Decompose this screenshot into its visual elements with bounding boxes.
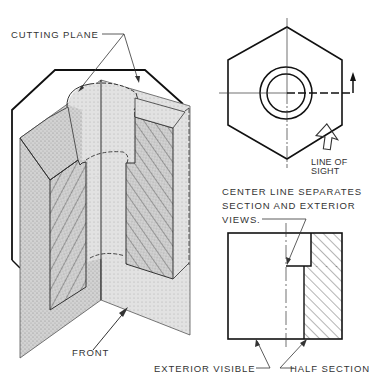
cutting-plane-label: CUTTING PLANE [11, 29, 99, 40]
line-of-sight-label-2: SIGHT [311, 167, 340, 176]
exterior-visible-label: EXTERIOR VISIBLE [154, 363, 256, 374]
center-line-note-1: CENTER LINE SEPARATES [222, 186, 362, 197]
left-section-face [50, 160, 86, 310]
pictorial-cutaway [12, 34, 190, 358]
front-label: FRONT [72, 347, 109, 358]
half-section-label: HALF SECTION [290, 363, 370, 374]
front-view [228, 219, 342, 368]
hatched-half [304, 266, 342, 339]
front-arrow [93, 310, 126, 350]
top-view [219, 18, 356, 168]
center-line-note-2: SECTION AND EXTERIOR [222, 200, 356, 211]
line-of-sight-arrow [314, 123, 339, 151]
center-line-note-3: VIEWS. [222, 214, 261, 225]
